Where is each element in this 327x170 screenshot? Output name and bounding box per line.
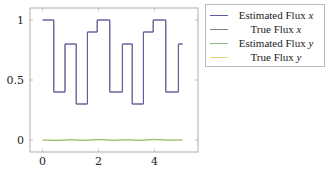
legend-label: Estimated Flux y <box>232 37 320 49</box>
y-tick-label: 0.5 <box>7 74 25 87</box>
legend-item-true-flux-x: True Flux x <box>210 22 320 36</box>
legend-swatch-icon <box>210 43 228 44</box>
legend-swatch-icon <box>210 57 228 58</box>
legend-label: True Flux x <box>232 23 320 35</box>
legend-item-estimated-flux-x: Estimated Flux x <box>210 8 320 22</box>
legend: Estimated Flux x True Flux x Estimated F… <box>205 4 325 67</box>
legend-swatch-icon <box>210 29 228 30</box>
axes-frame <box>30 8 198 152</box>
legend-label: Estimated Flux x <box>232 9 320 21</box>
series-line-estimated-flux-x <box>43 20 183 104</box>
y-tick-label: 1 <box>17 14 24 27</box>
x-tick-label: 2 <box>95 155 102 168</box>
legend-item-estimated-flux-y: Estimated Flux y <box>210 36 320 50</box>
legend-label: True Flux y <box>232 51 320 63</box>
y-tick-label: 0 <box>17 134 24 147</box>
x-tick-label: 4 <box>151 155 158 168</box>
legend-swatch-icon <box>210 15 228 16</box>
series-line-true-flux-x <box>43 20 183 104</box>
legend-item-true-flux-y: True Flux y <box>210 50 320 64</box>
x-tick-label: 0 <box>39 155 46 168</box>
plot-area: 02400.51 <box>7 8 199 168</box>
